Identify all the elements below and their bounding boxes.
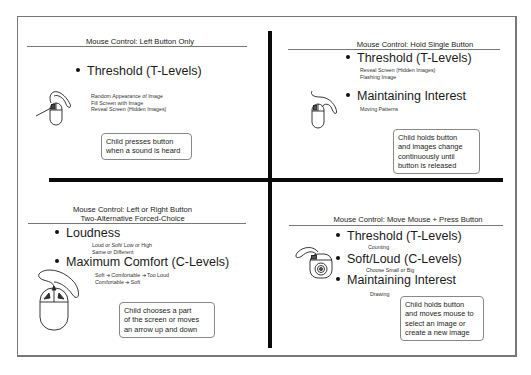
note-box: Child presses button when a sound is hea…: [101, 133, 192, 160]
bullet-loudness: Loudness: [55, 226, 120, 240]
panel-title: Mouse Control: Left Button Only: [30, 37, 250, 46]
bullet-dot: [55, 230, 59, 234]
bullet-soft-loud: Soft/Loud (C-Levels): [336, 252, 462, 266]
bullet-subitems: Random Appearance of Image Fill Screen w…: [91, 93, 166, 113]
mouse-left-button-icon: [34, 90, 78, 126]
panel-title: Mouse Control: Hold Single Button: [320, 40, 510, 49]
note-box: Child holds button and moves mouse to se…: [400, 296, 484, 341]
bullet-maintaining-interest: Maintaining Interest: [336, 273, 456, 287]
bullet-dot: [336, 256, 340, 260]
bullet-subitems: Counting: [368, 244, 389, 251]
panel-title: Mouse Control: Move Mouse + Press Button: [303, 215, 513, 224]
title-underline: [27, 46, 247, 47]
bullet-subitems: Loud or Soft/ Low or High Same or Differ…: [92, 242, 152, 255]
bullet-maximum-comfort: Maximum Comfort (C-Levels): [55, 255, 229, 269]
bullet-dot: [76, 68, 80, 72]
bullet-maintaining-interest: Maintaining Interest: [346, 89, 466, 103]
bullet-dot: [336, 233, 340, 237]
note-box: Child chooses a part of the screen or mo…: [119, 302, 215, 338]
horizontal-divider: [49, 178, 503, 182]
mouse-hold-button-icon: [308, 89, 348, 131]
vertical-divider: [268, 31, 272, 348]
mouse-left-right-button-icon: [36, 268, 86, 332]
title-underline: [28, 223, 246, 224]
bullet-dot: [346, 55, 350, 59]
bullet-dot: [55, 259, 59, 263]
panel-title: Mouse Control: Left or Right Button Two-…: [40, 205, 225, 223]
bullet-subitems: Drawing: [370, 291, 389, 298]
bullet-subitems: Moving Patterns: [360, 106, 398, 113]
title-underline: [288, 49, 500, 50]
bullet-threshold: Threshold (T-Levels): [76, 64, 202, 78]
title-underline: [289, 225, 503, 226]
note-box: Child holds button and images change con…: [393, 129, 480, 174]
bullet-subitems: Soft ➔ Comfortable ➔ Too Loud Comfortabl…: [95, 272, 169, 285]
bullet-dot: [336, 277, 340, 281]
bullet-threshold: Threshold (T-Levels): [346, 51, 472, 65]
mouse-trackball-icon: [294, 244, 334, 280]
bullet-subitems: Reveal Screen (Hidden Images) Flashing I…: [360, 67, 435, 80]
bullet-threshold: Threshold (T-Levels): [336, 229, 462, 243]
